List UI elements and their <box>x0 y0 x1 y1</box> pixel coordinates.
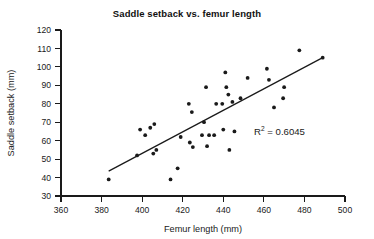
data-point <box>214 102 218 106</box>
data-point <box>226 93 230 97</box>
trend-line-group <box>109 58 323 171</box>
data-point <box>297 48 301 52</box>
data-point <box>224 85 228 89</box>
y-tick-label: 80 <box>41 99 51 109</box>
regression-line <box>109 58 323 171</box>
data-point <box>200 133 204 137</box>
data-point <box>154 148 158 152</box>
y-tick-label: 100 <box>37 62 52 72</box>
x-tick-label: 400 <box>135 205 150 215</box>
data-point <box>138 128 142 132</box>
data-point <box>265 67 269 71</box>
x-axis-title: Femur length (mm) <box>164 224 242 234</box>
y-tick-label: 70 <box>41 117 51 127</box>
data-point <box>227 148 231 152</box>
y-tick-label: 30 <box>41 191 51 201</box>
data-point <box>151 152 155 156</box>
data-point <box>152 122 156 126</box>
data-point <box>272 106 276 110</box>
data-point <box>190 110 194 114</box>
r-squared-annotation: R2 = 0.6045 <box>254 125 305 137</box>
data-point <box>207 133 211 137</box>
data-point <box>281 96 285 100</box>
y-tick-label: 40 <box>41 173 51 183</box>
data-point <box>179 135 183 139</box>
data-point <box>143 133 147 137</box>
x-tick-label: 440 <box>216 205 231 215</box>
x-axis-ticks: 360380400420440460480500 <box>54 196 353 215</box>
r-squared-value: = 0.6045 <box>265 126 305 137</box>
x-tick-label: 380 <box>94 205 109 215</box>
data-point <box>188 141 192 145</box>
x-tick-label: 460 <box>257 205 272 215</box>
data-point <box>148 126 152 130</box>
data-point <box>239 96 243 100</box>
data-point <box>169 178 173 182</box>
data-point <box>321 56 325 60</box>
data-point <box>205 144 209 148</box>
y-tick-label: 60 <box>41 136 51 146</box>
data-point <box>135 154 139 158</box>
data-point <box>233 130 237 134</box>
data-point <box>212 133 216 137</box>
data-point <box>231 100 235 104</box>
scatter-plot: 30405060708090100110120 3603804004204404… <box>0 0 374 239</box>
data-point <box>223 71 227 75</box>
data-point <box>220 102 224 106</box>
y-axis-title: Saddle setback (mm) <box>6 70 16 157</box>
y-tick-label: 120 <box>37 25 52 35</box>
chart-figure: Saddle setback vs. femur length 30405060… <box>0 0 374 239</box>
x-tick-label: 500 <box>338 205 353 215</box>
r-squared-base: R <box>254 126 261 137</box>
x-tick-label: 420 <box>176 205 191 215</box>
data-point <box>187 102 191 106</box>
y-tick-label: 110 <box>37 44 51 54</box>
data-point <box>221 128 225 132</box>
axes <box>61 30 345 196</box>
data-point <box>107 178 111 182</box>
y-tick-label: 50 <box>41 154 51 164</box>
data-point <box>176 166 180 170</box>
y-axis-ticks: 30405060708090100110120 <box>37 25 61 201</box>
data-point <box>267 78 271 82</box>
data-point <box>246 76 250 80</box>
x-tick-label: 360 <box>54 205 69 215</box>
x-tick-label: 480 <box>297 205 312 215</box>
y-tick-label: 90 <box>41 80 51 90</box>
data-point <box>202 120 206 124</box>
data-point <box>282 85 286 89</box>
data-point <box>191 145 195 149</box>
data-point <box>204 85 208 89</box>
